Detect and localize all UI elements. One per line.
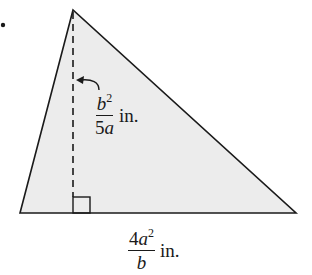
base-unit: in. bbox=[160, 240, 180, 262]
base-numerator: 4a2 bbox=[128, 229, 155, 251]
triangle-shape bbox=[20, 10, 296, 213]
base-fraction: 4a2 b bbox=[128, 229, 155, 272]
base-label: 4a2 b in. bbox=[128, 229, 180, 272]
bullet-dot bbox=[1, 23, 5, 27]
height-numerator-exp: 2 bbox=[106, 91, 112, 105]
height-numerator: b2 bbox=[96, 94, 114, 116]
base-numerator-var: a bbox=[139, 228, 149, 249]
height-fraction: b2 5a bbox=[95, 94, 114, 137]
base-numerator-coef: 4 bbox=[129, 228, 139, 249]
base-denominator: b bbox=[137, 251, 147, 272]
height-denominator-coef: 5 bbox=[95, 117, 105, 138]
base-numerator-exp: 2 bbox=[148, 226, 154, 240]
height-denominator: 5a bbox=[95, 116, 114, 137]
height-unit: in. bbox=[119, 105, 139, 127]
height-label: b2 5a in. bbox=[95, 94, 139, 137]
height-numerator-var: b bbox=[97, 93, 107, 114]
height-denominator-var: a bbox=[105, 117, 115, 138]
